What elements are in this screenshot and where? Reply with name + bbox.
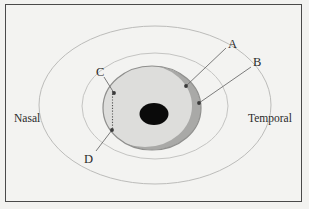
leader-line-a bbox=[186, 48, 226, 86]
pupil bbox=[140, 103, 169, 125]
orientation-label-temporal: Temporal bbox=[248, 113, 292, 125]
orientation-label-nasal: Nasal bbox=[14, 113, 40, 125]
part-label-a: A bbox=[228, 38, 237, 51]
part-label-c: C bbox=[96, 66, 104, 79]
leader-endpoint-d bbox=[110, 128, 114, 132]
leader-endpoint-b bbox=[197, 101, 201, 105]
leader-endpoint-a bbox=[184, 84, 188, 88]
leader-endpoint-c bbox=[112, 91, 116, 95]
eye-anatomy-figure: Nasal Temporal A B C D bbox=[0, 0, 309, 209]
part-label-b: B bbox=[253, 56, 261, 69]
part-label-d: D bbox=[84, 153, 93, 166]
eye-diagram bbox=[0, 0, 309, 209]
leader-line-b bbox=[199, 67, 251, 103]
